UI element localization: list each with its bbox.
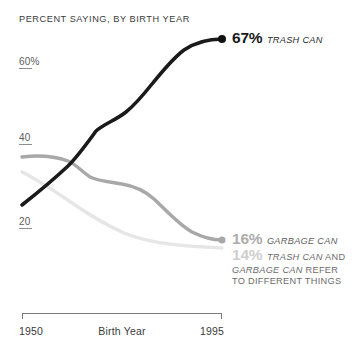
y-tick-40-label: 40 [19,132,31,143]
x-tick-end-label: 1995 [200,325,224,337]
y-tick-40: 40 [19,132,32,145]
series-line-garbage [22,156,222,240]
annotation-both-line1-tail: AND [323,252,346,262]
annotation-garbage-percent-sign: % [249,230,263,247]
annotation-garbage-name: GARBAGE CAN [267,236,338,246]
annotation-trash-value: 67 [232,29,249,46]
x-axis-bracket [22,313,222,319]
series-line-trash [22,39,222,205]
chart-figure: PERCENT SAYING, BY BIRTH YEAR 60% 40 20 … [0,0,363,354]
y-tick-40-rule [19,144,32,145]
annotation-both-percent-sign: % [249,246,263,263]
annotation-both-line2-emphasis: GARBAGE CAN [232,265,303,275]
annotation-both-value: 14 [232,246,249,263]
annotation-trash-percent-sign: % [249,29,263,46]
y-tick-20: 20 [19,216,32,229]
y-tick-20-rule [19,228,32,229]
annotation-trash-can: 67% TRASH CAN [232,29,323,48]
annotation-trash-name: TRASH CAN [267,35,323,45]
series-endpoint-garbage [219,237,226,244]
annotation-both-different: 14% TRASH CAN AND GARBAGE CAN REFER TO D… [232,246,345,287]
series-endpoint-trash [218,35,226,43]
annotation-both-line2-tail: REFER [303,265,339,275]
y-tick-60-label: 60% [19,56,40,67]
line-chart-plot [0,0,363,354]
annotation-garbage-value: 16 [232,230,249,247]
y-tick-60: 60% [19,56,40,69]
y-tick-60-rule [19,68,32,69]
annotation-both-name: TRASH CAN [267,252,323,262]
annotation-both-line3: TO DIFFERENT THINGS [232,276,345,287]
y-tick-20-label: 20 [19,216,31,227]
annotation-both-line1: 14% TRASH CAN AND [232,246,345,265]
annotation-both-line2: GARBAGE CAN REFER [232,265,345,276]
